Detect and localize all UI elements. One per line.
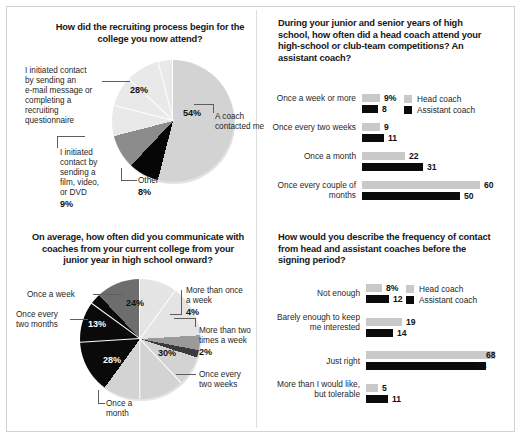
bar-head-coach-once-a-month	[362, 152, 405, 160]
leader-other-v	[121, 168, 122, 181]
panel-recruiting-process-begin: How did the recruiting process begin for…	[8, 8, 256, 220]
panel-communication-frequency: On average, how often did you communicat…	[8, 222, 256, 432]
leader-more-once-h	[170, 314, 182, 315]
leader-film-h	[57, 136, 85, 137]
bar-value-head-more-than-i-would-like: 5	[382, 383, 387, 393]
bar-value-head-barely-enough: 19	[406, 317, 416, 327]
pie-value-other: 8%	[138, 187, 151, 197]
pie-value-once-a-week: 24%	[126, 298, 144, 308]
leader-every-two-months	[70, 319, 88, 320]
bar-head-coach-once-every-two-weeks	[362, 123, 380, 131]
leader-more-two-v	[195, 318, 196, 327]
pie-label-email: I initiated contact by sending an e-mail…	[25, 66, 113, 127]
bar-assistant-coach-just-right	[366, 362, 486, 370]
bar-value-head-once-every-two-weeks: 9	[384, 122, 389, 132]
bar-head-coach-not-enough	[366, 284, 382, 292]
panel-coach-attendance: During your junior and senior years of h…	[258, 8, 513, 220]
bar-assistant-coach-once-every-two-weeks	[362, 134, 384, 142]
bar-category-not-enough: Not enough	[268, 289, 360, 299]
panel-contact-frequency-description: How would you describe the frequency of …	[258, 222, 513, 432]
panel-title: On average, how often did you communicat…	[30, 232, 246, 267]
bar-category-more-than-i-would-like: More than I would like, but tolerable	[268, 380, 360, 400]
bar-value-assistant-once-every-two-weeks: 11	[388, 133, 397, 143]
leader-other-h	[121, 180, 137, 181]
bar-value-assistant-just-right: 63	[477, 361, 487, 371]
bar-head-coach-once-every-couple-of-months	[362, 181, 480, 189]
pie-label-once-a-month: Once a month	[106, 399, 158, 419]
leader-coach-contacted-tick	[213, 104, 214, 113]
pie-value-more-than-two-times-a-week: 2%	[199, 347, 212, 357]
bar-value-assistant-more-than-i-would-like: 11	[392, 394, 401, 404]
leader-once-a-month-h	[98, 403, 105, 404]
bar-category-once-every-couple-of-months: Once every couple of months	[264, 181, 356, 201]
bar-head-coach-once-a-week-or-more	[362, 94, 380, 102]
bar-value-assistant-once-a-month: 31	[427, 162, 437, 172]
bar-assistant-coach-once-every-couple-of-months	[362, 192, 460, 200]
bar-assistant-coach-once-a-week-or-more	[362, 105, 378, 113]
leader-once-a-week	[93, 294, 123, 295]
bar-value-head-just-right: 68	[486, 350, 496, 360]
bar-value-head-once-a-month: 22	[409, 151, 419, 161]
bar-value-head-once-a-week-or-more: 9%	[384, 93, 396, 103]
bar-value-assistant-barely-enough: 14	[397, 328, 407, 338]
bar-category-once-every-two-weeks: Once every two weeks	[264, 123, 356, 133]
pie-value-every-two-months: 13%	[88, 319, 106, 329]
bar-chart-contact-frequency: Not enough 8% 12 Barely enough to keep m…	[258, 222, 513, 432]
bar-chart-coach-attendance: Once a week or more 9% 8 Once every two …	[258, 8, 513, 220]
leader-more-once-v	[181, 290, 182, 315]
leader-more-two-h	[174, 318, 196, 319]
pie-value-once-a-month: 28%	[103, 355, 121, 365]
bar-category-once-a-week-or-more: Once a week or more	[264, 94, 356, 104]
pie-label-every-two-months: Once every two months	[16, 310, 78, 330]
pie-label-once-every-two-weeks: Once every two weeks	[199, 370, 265, 390]
leader-every-two-weeks	[176, 374, 196, 375]
pie-value-coach-contacted: 54%	[183, 108, 201, 118]
leader-once-a-month-v	[98, 390, 99, 404]
bar-category-barely-enough: Barely enough to keep me interested	[268, 313, 360, 333]
pie-value-film: 9%	[60, 199, 73, 209]
bar-assistant-coach-once-a-month	[362, 163, 423, 171]
bar-head-coach-barely-enough	[366, 318, 402, 326]
leader-coach-contacted	[194, 104, 214, 105]
pie-value-more-than-once-a-week: 4%	[186, 307, 199, 317]
leader-email	[102, 81, 130, 82]
bar-category-once-a-month: Once a month	[264, 152, 356, 162]
bar-assistant-coach-not-enough	[366, 295, 389, 303]
bar-head-coach-more-than-i-would-like	[366, 384, 378, 392]
bar-value-head-not-enough: 8%	[386, 283, 398, 293]
bar-value-assistant-not-enough: 12	[393, 294, 403, 304]
pie-value-every-two-weeks: 30%	[158, 348, 176, 358]
infographic-page: How did the recruiting process begin for…	[0, 0, 521, 438]
vertical-divider	[256, 10, 257, 428]
bar-assistant-coach-more-than-i-would-like	[366, 395, 388, 403]
bar-value-assistant-once-every-couple-of-months: 50	[464, 191, 474, 201]
bar-value-head-once-every-couple-of-months: 60	[484, 180, 494, 190]
bar-value-assistant-once-a-week-or-more: 8	[382, 104, 387, 114]
pie-label-film: I initiated contact by sending a film, v…	[60, 148, 122, 198]
bar-assistant-coach-barely-enough	[366, 329, 393, 337]
bar-category-just-right: Just right	[268, 357, 360, 367]
pie-label-once-a-week: Once a week	[27, 290, 93, 300]
panel-title: How did the recruiting process begin for…	[50, 22, 250, 45]
pie-label-other: Other	[138, 176, 178, 186]
pie-value-email: 28%	[130, 85, 148, 95]
bar-head-coach-just-right	[366, 351, 495, 359]
leader-film-v	[57, 136, 58, 148]
pie-label-more-than-once-a-week: More than once a week	[186, 286, 266, 306]
